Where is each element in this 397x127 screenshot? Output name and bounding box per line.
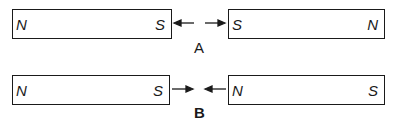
arrowhead-left-icon	[174, 20, 181, 26]
force-arrows	[0, 0, 397, 127]
arrowhead-right-icon	[186, 86, 193, 92]
arrowhead-right-icon	[218, 20, 225, 26]
arrowhead-left-icon	[205, 86, 212, 92]
